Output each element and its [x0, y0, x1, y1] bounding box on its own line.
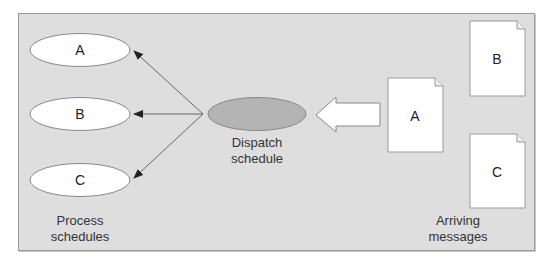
process-node-a-label: A	[75, 42, 85, 58]
block-arrow-icon	[316, 97, 380, 132]
process-node-b-label: B	[75, 106, 84, 122]
dispatch-arrows	[134, 51, 203, 178]
message-document-a-label: A	[410, 108, 420, 124]
process-node-a: A	[30, 34, 130, 67]
arriving-messages-caption: Arriving messages	[408, 213, 508, 245]
arriving-caption-line1: Arriving	[408, 213, 508, 229]
message-document-c-label: C	[492, 164, 502, 180]
message-document-b-label: B	[492, 51, 501, 67]
diagram-canvas: A B C A B C Dispa	[0, 0, 554, 266]
process-caption-line2: schedules	[30, 229, 130, 245]
process-node-c: C	[30, 164, 130, 197]
message-document-a: A	[388, 78, 443, 152]
message-document-b: B	[470, 21, 525, 96]
message-document-c: C	[470, 134, 525, 208]
arrow-to-process-c	[134, 114, 203, 178]
dispatch-caption-line1: Dispatch	[207, 135, 307, 151]
arriving-caption-line2: messages	[408, 229, 508, 245]
process-node-c-label: C	[75, 172, 85, 188]
dispatch-node	[208, 98, 306, 131]
process-caption-line1: Process	[30, 213, 130, 229]
arrow-to-process-a	[134, 51, 203, 114]
dispatch-caption-line2: schedule	[207, 151, 307, 167]
process-schedules-caption: Process schedules	[30, 213, 130, 245]
process-node-b: B	[30, 98, 130, 131]
dispatch-caption: Dispatch schedule	[207, 135, 307, 167]
